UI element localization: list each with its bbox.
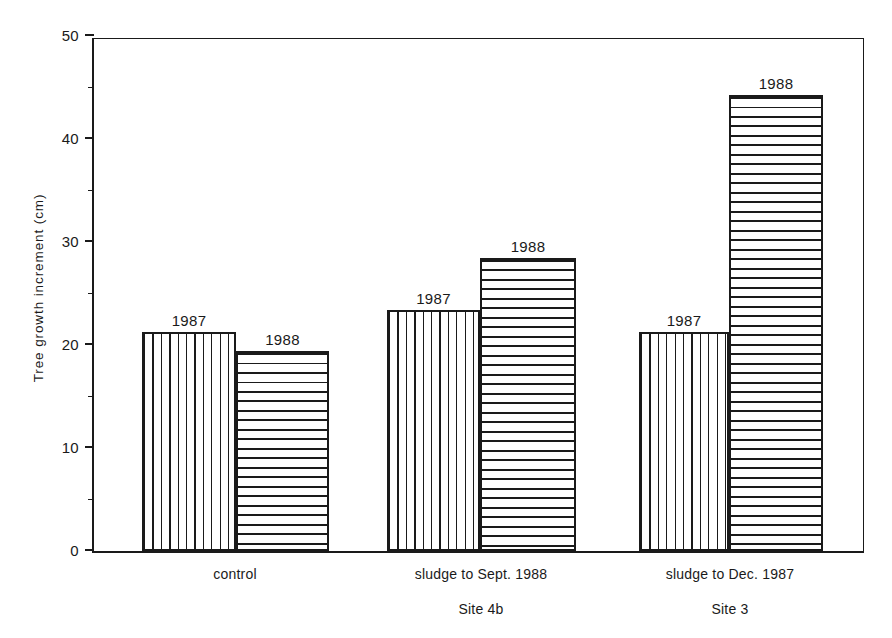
bar-sludge-to-sept-1988-1987: 1987 <box>387 310 480 551</box>
x-category-sublabel: Site 3 <box>666 600 794 619</box>
x-category-sludge-to-dec-1987: sludge to Dec. 1987Site 3 <box>666 565 794 619</box>
y-axis-title: Tree growth increment (cm) <box>26 28 52 548</box>
bar-label-1988: 1988 <box>511 238 546 255</box>
x-category-label: sludge to Dec. 1987 <box>666 566 794 582</box>
y-tick-major: 40 <box>85 137 94 139</box>
y-tick-label: 20 <box>62 334 79 356</box>
bar-label-1987: 1987 <box>172 312 207 329</box>
x-category-label: control <box>213 566 256 582</box>
x-category-control: control <box>213 565 256 584</box>
plot-area: 50403020100 198719881987198819871988 con… <box>92 38 864 553</box>
bar-label-1988: 1988 <box>759 75 794 92</box>
bar-sludge-to-sept-1988-1988: 1988 <box>480 258 576 551</box>
bar-sludge-to-dec-1987-1987: 1987 <box>639 332 729 551</box>
y-tick-minor <box>88 396 94 397</box>
y-tick-label: 10 <box>62 437 79 459</box>
y-tick-major: 30 <box>85 240 94 242</box>
y-tick-major: 0 <box>85 549 94 551</box>
y-tick-minor <box>88 293 94 294</box>
bar-control-1988: 1988 <box>236 351 329 551</box>
y-tick-major: 50 <box>85 34 94 36</box>
y-tick-label: 0 <box>70 540 79 562</box>
y-tick-minor <box>88 190 94 191</box>
y-tick-major: 10 <box>85 446 94 448</box>
y-tick-major: 20 <box>85 343 94 345</box>
x-category-sludge-to-sept-1988: sludge to Sept. 1988Site 4b <box>415 565 547 619</box>
y-tick-minor <box>88 499 94 500</box>
bar-chart-figure: Tree growth increment (cm) 50403020100 1… <box>0 0 892 638</box>
y-tick-label: 40 <box>62 128 79 150</box>
y-tick-minor <box>88 87 94 88</box>
x-category-sublabel: Site 4b <box>415 600 547 619</box>
bar-label-1987: 1987 <box>667 312 702 329</box>
y-tick-label: 30 <box>62 231 79 253</box>
y-tick-label: 50 <box>62 25 79 47</box>
bar-control-1987: 1987 <box>142 332 236 551</box>
bar-label-1988: 1988 <box>265 331 300 348</box>
bar-sludge-to-dec-1987-1988: 1988 <box>729 95 823 551</box>
x-category-label: sludge to Sept. 1988 <box>415 566 547 582</box>
bar-label-1987: 1987 <box>416 290 451 307</box>
